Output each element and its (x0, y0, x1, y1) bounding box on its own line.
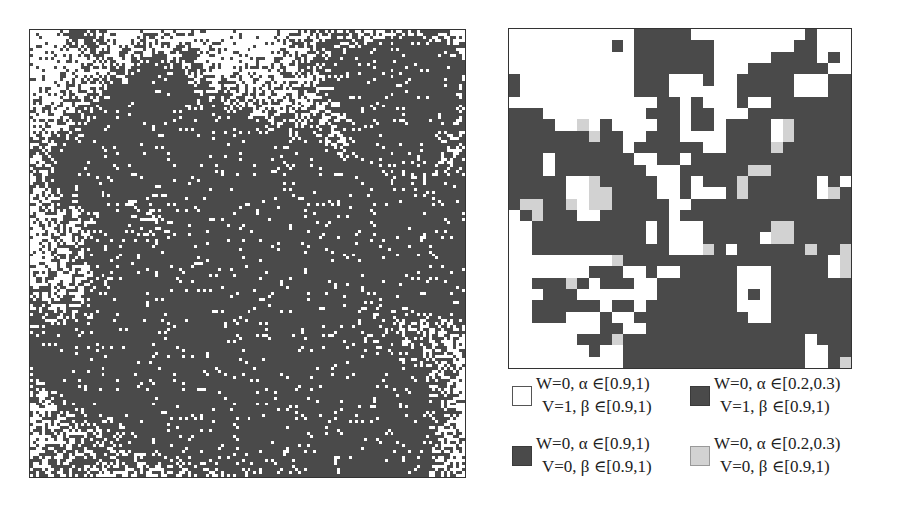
grid-cell (748, 255, 759, 266)
grid-cell (669, 86, 680, 97)
grid-cell (520, 153, 531, 164)
grid-cell (543, 334, 554, 345)
grid-cell (646, 300, 657, 311)
grid-cell (520, 300, 531, 311)
grid-cell (600, 74, 611, 85)
grid-cell (520, 119, 531, 130)
grid-cell (748, 108, 759, 119)
grid-cell (691, 199, 702, 210)
grid-cell (737, 153, 748, 164)
grid-cell (646, 142, 657, 153)
grid-cell (589, 221, 600, 232)
grid-cell (771, 300, 782, 311)
grid-cell (794, 255, 805, 266)
grid-cell (634, 86, 645, 97)
grid-cell (726, 142, 737, 153)
grid-cell (703, 199, 714, 210)
grid-cell (509, 165, 520, 176)
grid-cell (760, 40, 771, 51)
grid-cell (577, 244, 588, 255)
grid-cell (669, 199, 680, 210)
grid-cell (623, 86, 634, 97)
grid-cell (680, 119, 691, 130)
grid-cell (520, 323, 531, 334)
grid-cell (669, 142, 680, 153)
grid-cell (577, 153, 588, 164)
grid-cell (543, 52, 554, 63)
grid-cell (589, 323, 600, 334)
grid-cell (748, 300, 759, 311)
grid-cell (600, 52, 611, 63)
grid-cell (543, 323, 554, 334)
grid-cell (748, 52, 759, 63)
grid-cell (771, 176, 782, 187)
grid-cell (691, 63, 702, 74)
grid-cell (783, 142, 794, 153)
grid-cell (737, 300, 748, 311)
grid-cell (691, 289, 702, 300)
grid-cell (805, 221, 816, 232)
grid-cell (634, 199, 645, 210)
grid-cell (714, 165, 725, 176)
grid-cell (669, 153, 680, 164)
grid-cell (760, 119, 771, 130)
grid-cell (612, 97, 623, 108)
grid-cell (794, 244, 805, 255)
grid-cell (760, 323, 771, 334)
grid-cell (623, 142, 634, 153)
grid-cell (520, 232, 531, 243)
grid-cell (634, 345, 645, 356)
grid-cell (589, 165, 600, 176)
grid-cell (520, 334, 531, 345)
grid-cell (771, 210, 782, 221)
grid-cell (612, 63, 623, 74)
grid-cell (657, 29, 668, 40)
grid-cell (748, 266, 759, 277)
grid-cell (828, 52, 839, 63)
left-occupancy-map (29, 29, 466, 478)
grid-cell (840, 108, 851, 119)
grid-cell (840, 255, 851, 266)
grid-cell (669, 357, 680, 368)
grid-cell (737, 187, 748, 198)
grid-cell (703, 63, 714, 74)
grid-cell (612, 300, 623, 311)
grid-cell (771, 131, 782, 142)
grid-cell (669, 108, 680, 119)
grid-cell (714, 312, 725, 323)
grid-cell (657, 232, 668, 243)
grid-cell (555, 142, 566, 153)
grid-cell (748, 165, 759, 176)
grid-cell (657, 142, 668, 153)
grid-cell (543, 165, 554, 176)
grid-cell (771, 289, 782, 300)
grid-cell (726, 74, 737, 85)
grid-cell (589, 289, 600, 300)
grid-cell (691, 278, 702, 289)
grid-cell (520, 86, 531, 97)
grid-cell (714, 334, 725, 345)
grid-cell (726, 289, 737, 300)
grid-cell (817, 357, 828, 368)
grid-cell (794, 345, 805, 356)
grid-cell (577, 323, 588, 334)
grid-cell (748, 210, 759, 221)
grid-cell (760, 244, 771, 255)
grid-cell (520, 221, 531, 232)
grid-cell (783, 266, 794, 277)
grid-cell (817, 165, 828, 176)
grid-cell (543, 131, 554, 142)
grid-cell (828, 176, 839, 187)
grid-cell (657, 221, 668, 232)
grid-cell (760, 300, 771, 311)
grid-cell (726, 119, 737, 130)
grid-cell (794, 232, 805, 243)
grid-cell (555, 131, 566, 142)
grid-cell (669, 312, 680, 323)
grid-cell (691, 74, 702, 85)
grid-cell (657, 278, 668, 289)
grid-cell (669, 131, 680, 142)
grid-cell (669, 255, 680, 266)
grid-cell (714, 97, 725, 108)
grid-cell (828, 334, 839, 345)
